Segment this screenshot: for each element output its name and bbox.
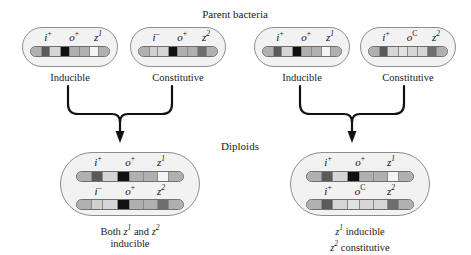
allele-o: o+ xyxy=(69,31,79,43)
segment xyxy=(139,47,150,56)
chromosome-parent-right-constitutive xyxy=(368,46,448,57)
segment xyxy=(103,172,118,181)
chromosome-parent-left-inducible xyxy=(30,46,110,57)
segment xyxy=(169,200,183,209)
segment xyxy=(198,47,207,56)
segment xyxy=(92,172,104,181)
segment xyxy=(169,172,183,181)
segment xyxy=(169,47,178,56)
allele-i: i+ xyxy=(382,31,389,43)
allele-row-diploid-left-top: i+ o+ z1 xyxy=(60,156,200,169)
segment xyxy=(418,47,428,56)
caption-parent-right-constitutive: Constitutive xyxy=(382,72,433,85)
allele-o: o+ xyxy=(177,31,187,43)
segment xyxy=(388,172,400,181)
segment xyxy=(42,47,51,56)
segment xyxy=(333,172,348,181)
allele-i: i+ xyxy=(276,31,283,43)
segment xyxy=(130,172,144,181)
allele-z: z2 xyxy=(387,185,395,197)
allele-z: z1 xyxy=(94,31,102,43)
allele-row-parent-left-constitutive: i– o+ z2 xyxy=(130,31,226,44)
allele-row-parent-right-constitutive: i+ oC z2 xyxy=(360,31,456,44)
parent-bacteria-heading: Parent bacteria xyxy=(202,8,268,21)
allele-i: i+ xyxy=(324,156,331,168)
allele-z: z1 xyxy=(157,156,165,168)
allele-o: oC xyxy=(407,31,418,43)
caption-diploid-right-line2: z2 constitutive xyxy=(330,238,389,254)
segment xyxy=(158,200,170,209)
caption-diploid-right: z1 inducible z2 constitutive xyxy=(330,222,389,254)
diploids-heading: Diploids xyxy=(221,140,259,153)
segment xyxy=(437,47,447,56)
segment xyxy=(92,200,104,209)
segment xyxy=(90,47,99,56)
segment xyxy=(130,200,144,209)
caption-parent-left-inducible: Inducible xyxy=(50,72,90,85)
segment xyxy=(61,47,70,56)
segment xyxy=(374,200,388,209)
segment xyxy=(348,172,360,181)
segment xyxy=(331,47,341,56)
segment xyxy=(150,47,159,56)
segment xyxy=(144,172,158,181)
segment xyxy=(428,47,437,56)
chromosome-diploid-left-bottom xyxy=(76,199,184,210)
segment xyxy=(50,47,61,56)
allele-o: o+ xyxy=(355,156,365,168)
segment xyxy=(302,47,312,56)
allele-z: z1 xyxy=(387,156,395,168)
segment xyxy=(207,47,217,56)
allele-z: z2 xyxy=(432,31,440,43)
allele-i: i+ xyxy=(324,185,331,197)
segment xyxy=(312,47,322,56)
segment xyxy=(282,47,293,56)
segment xyxy=(322,172,334,181)
caption-diploid-left-line1: Both z1 and z2 xyxy=(100,222,159,238)
segment xyxy=(307,200,322,209)
segment xyxy=(178,47,188,56)
lac-operon-diploid-figure: Parent bacteria Diploids i+ o+ z1 Induci… xyxy=(0,0,471,255)
caption-parent-right-inducible: Inducible xyxy=(282,72,322,85)
allele-row-parent-right-inducible: i+ o+ z1 xyxy=(254,31,350,44)
segment xyxy=(322,200,334,209)
chromosome-parent-right-inducible xyxy=(262,46,342,57)
allele-i: i+ xyxy=(44,31,51,43)
chromosome-diploid-left-top xyxy=(76,171,184,182)
allele-i: i– xyxy=(153,31,160,43)
allele-o: o+ xyxy=(301,31,311,43)
segment xyxy=(388,47,399,56)
segment xyxy=(274,47,283,56)
segment xyxy=(399,200,413,209)
allele-row-diploid-left-bottom: i– o+ z2 xyxy=(60,185,200,198)
segment xyxy=(118,200,130,209)
allele-row-diploid-right-top: i+ o+ z1 xyxy=(290,156,430,169)
allele-z: z2 xyxy=(157,185,165,197)
segment xyxy=(348,200,360,209)
segment xyxy=(408,47,418,56)
segment xyxy=(399,47,408,56)
allele-o: oC xyxy=(355,185,366,197)
cross-connector-left xyxy=(50,84,190,146)
segment xyxy=(293,47,302,56)
caption-parent-left-constitutive: Constitutive xyxy=(152,72,203,85)
segment xyxy=(307,172,322,181)
segment xyxy=(77,200,92,209)
segment xyxy=(77,172,92,181)
allele-row-diploid-right-bottom: i+ oC z2 xyxy=(290,185,430,198)
segment xyxy=(360,200,374,209)
allele-z: z1 xyxy=(326,31,334,43)
segment xyxy=(360,172,374,181)
chromosome-diploid-right-bottom xyxy=(306,199,414,210)
segment xyxy=(103,200,118,209)
allele-o: o+ xyxy=(125,185,135,197)
segment xyxy=(322,47,331,56)
segment xyxy=(158,47,169,56)
segment xyxy=(333,200,348,209)
segment xyxy=(118,172,130,181)
allele-i: i+ xyxy=(94,156,101,168)
segment xyxy=(263,47,274,56)
caption-diploid-left: Both z1 and z2 inducible xyxy=(100,222,159,251)
segment xyxy=(80,47,90,56)
segment xyxy=(369,47,380,56)
